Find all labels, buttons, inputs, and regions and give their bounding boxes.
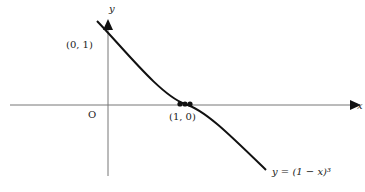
plot-canvas [0,0,365,192]
x-intercept-label: (1, 0) [169,112,196,122]
cubic-curve [97,21,266,170]
inflection-point-marker [187,101,192,106]
y-intercept-label: (0, 1) [66,40,93,50]
function-equation-label: y = (1 − x)³ [272,167,331,177]
inflection-point-marker [177,101,182,106]
y-axis-label: y [109,4,115,14]
x-axis-label: x [357,101,363,111]
cubic-function-graph: y x (0, 1) O (1, 0) y = (1 − x)³ [0,0,365,192]
inflection-point-marker [182,101,187,106]
origin-label: O [88,110,96,120]
